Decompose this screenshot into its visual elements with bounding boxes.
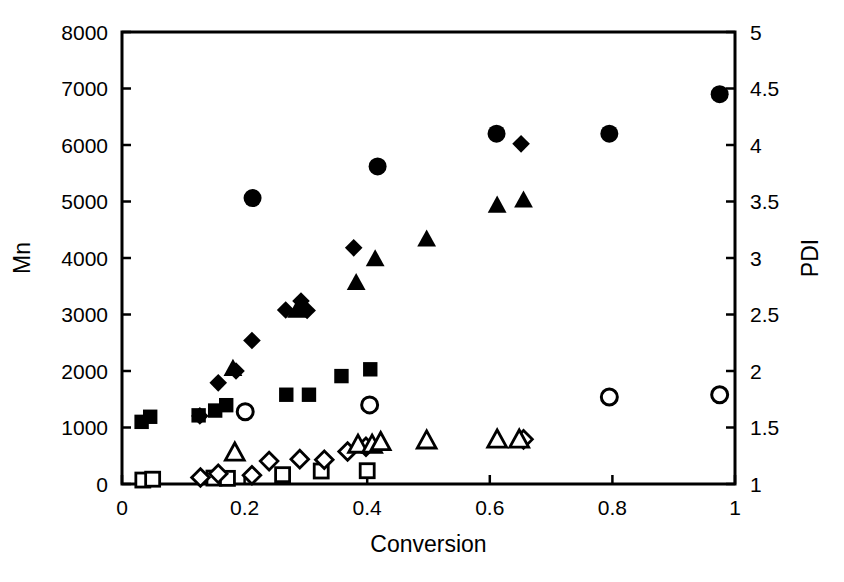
y2-axis-tick-label: 2.5 bbox=[750, 303, 779, 326]
y-axis-tick-label: 1000 bbox=[61, 416, 108, 439]
x-axis-tick-label: 0.4 bbox=[353, 496, 383, 519]
data-point-filled-circle bbox=[711, 85, 729, 103]
data-point-filled-triangle bbox=[488, 195, 507, 212]
data-point-filled-circle bbox=[244, 189, 262, 207]
y-axis-tick-label: 4000 bbox=[61, 247, 108, 270]
data-point-filled-circle bbox=[369, 157, 387, 175]
data-point-open-triangle bbox=[488, 430, 507, 447]
series-filled-square bbox=[134, 362, 377, 429]
x-axis-tick-label: 0 bbox=[116, 496, 128, 519]
data-point-filled-circle bbox=[488, 125, 506, 143]
series-filled-circle bbox=[244, 85, 729, 207]
y-axis-tick-label: 0 bbox=[96, 473, 108, 496]
data-point-open-square bbox=[146, 472, 160, 486]
data-point-filled-diamond bbox=[345, 239, 363, 257]
y-axis-title: Mn bbox=[9, 242, 35, 274]
data-point-filled-diamond bbox=[512, 135, 530, 153]
data-point-filled-square bbox=[302, 388, 316, 402]
y-axis-tick-label: 6000 bbox=[61, 134, 108, 157]
y2-axis-title: PDI bbox=[797, 239, 823, 277]
data-point-open-triangle bbox=[225, 443, 244, 460]
x-axis-tick-label: 0.8 bbox=[598, 496, 627, 519]
data-point-filled-square bbox=[143, 410, 157, 424]
data-point-open-circle bbox=[601, 389, 617, 405]
y2-axis-tick-label: 1.5 bbox=[750, 416, 779, 439]
x-axis-tick-label: 0.6 bbox=[475, 496, 504, 519]
data-point-filled-circle bbox=[600, 125, 618, 143]
data-point-filled-diamond bbox=[243, 332, 261, 350]
data-point-filled-triangle bbox=[417, 229, 436, 246]
x-axis-tick-label: 0.2 bbox=[230, 496, 259, 519]
y-axis-tick-label: 5000 bbox=[61, 190, 108, 213]
data-point-filled-square bbox=[363, 362, 377, 376]
y2-axis-tick-label: 3 bbox=[750, 247, 762, 270]
y2-axis-tick-label: 4 bbox=[750, 134, 762, 157]
data-point-filled-square bbox=[219, 398, 233, 412]
data-point-filled-square bbox=[334, 369, 348, 383]
data-point-filled-square bbox=[279, 388, 293, 402]
data-point-filled-diamond bbox=[209, 374, 227, 392]
data-point-open-circle bbox=[362, 397, 378, 413]
data-point-filled-triangle bbox=[366, 249, 385, 266]
y-axis-tick-label: 2000 bbox=[61, 360, 108, 383]
y2-axis-tick-label: 1 bbox=[750, 473, 762, 496]
y2-axis-tick-label: 2 bbox=[750, 360, 762, 383]
x-axis-title: Conversion bbox=[370, 531, 486, 557]
y-axis-tick-label: 3000 bbox=[61, 303, 108, 326]
data-point-filled-triangle bbox=[347, 273, 366, 290]
series-filled-triangle bbox=[224, 190, 533, 376]
chart-container: 01000200030004000500060007000800011.522.… bbox=[0, 0, 844, 582]
data-point-filled-triangle bbox=[514, 190, 533, 207]
data-point-open-triangle bbox=[417, 431, 436, 448]
scatter-chart: 01000200030004000500060007000800011.522.… bbox=[0, 0, 844, 582]
x-axis-tick-label: 1 bbox=[729, 496, 741, 519]
series-filled-diamond bbox=[191, 135, 530, 425]
y2-axis-tick-label: 5 bbox=[750, 21, 762, 44]
data-point-open-diamond bbox=[291, 450, 309, 468]
y-axis-tick-label: 7000 bbox=[61, 77, 108, 100]
y2-axis-tick-label: 3.5 bbox=[750, 190, 779, 213]
data-point-open-square bbox=[276, 468, 290, 482]
data-point-open-circle bbox=[237, 404, 253, 420]
y-axis-tick-label: 8000 bbox=[61, 21, 108, 44]
data-point-open-square bbox=[360, 464, 374, 478]
data-point-open-circle bbox=[712, 387, 728, 403]
y2-axis-tick-label: 4.5 bbox=[750, 77, 779, 100]
